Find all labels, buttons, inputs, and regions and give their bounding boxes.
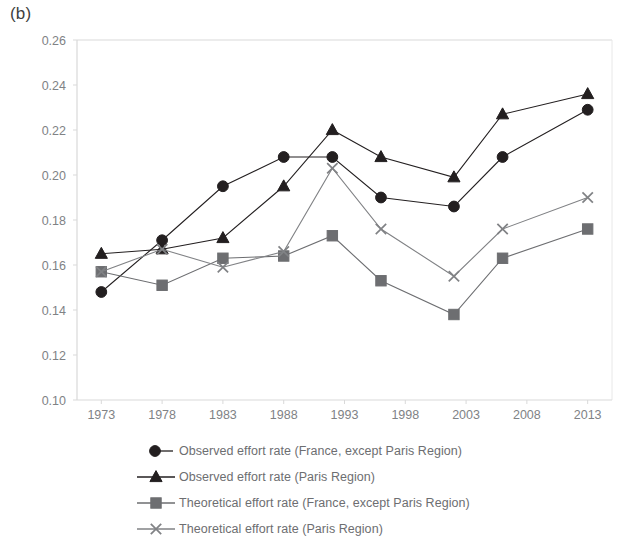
marker-triangle (375, 151, 387, 162)
legend-marker-square-icon (133, 493, 179, 513)
y-tick-label: 0.18 (42, 214, 66, 228)
chart-series (96, 104, 593, 297)
series-line (101, 229, 587, 315)
marker-square (376, 276, 386, 286)
figure-panel-b: (b) 0.100.120.140.160.180.200.220.240.26… (0, 0, 624, 552)
series-line (101, 168, 587, 276)
marker-square (327, 231, 337, 241)
x-tick-label: 1993 (331, 408, 359, 422)
legend-item-label: Observed effort rate (France, except Par… (179, 444, 462, 458)
legend-marker-cross-icon (133, 519, 179, 539)
marker-circle (376, 192, 387, 203)
x-tick-label: 2013 (574, 408, 602, 422)
chart-plot-area: 0.100.120.140.160.180.200.220.240.261973… (0, 0, 624, 436)
legend-marker-triangle-icon (133, 467, 179, 487)
marker-triangle (326, 124, 338, 135)
marker-circle (449, 201, 460, 212)
y-tick-label: 0.16 (42, 259, 66, 273)
chart-series (96, 224, 593, 320)
marker-circle (497, 152, 508, 163)
y-tick-label: 0.10 (42, 394, 66, 408)
y-tick-label: 0.20 (42, 169, 66, 183)
marker-circle (582, 104, 593, 115)
y-tick-label: 0.24 (42, 79, 66, 93)
x-tick-label: 1973 (87, 408, 115, 422)
marker-square (218, 253, 228, 263)
marker-square (157, 280, 167, 290)
legend-item-label: Observed effort rate (Paris Region) (179, 470, 375, 484)
marker-square (449, 309, 459, 319)
marker-circle (327, 152, 338, 163)
y-tick-label: 0.14 (42, 304, 66, 318)
marker-triangle (150, 471, 162, 482)
marker-square (151, 498, 161, 508)
marker-circle (96, 287, 107, 298)
x-tick-label: 1998 (391, 408, 419, 422)
marker-triangle (95, 247, 107, 258)
marker-circle (150, 446, 161, 457)
x-tick-label: 2003 (452, 408, 480, 422)
x-tick-label: 2008 (513, 408, 541, 422)
marker-circle (218, 181, 229, 192)
legend-item: Theoretical effort rate (Paris Region) (133, 516, 603, 542)
legend-item: Theoretical effort rate (France, except … (133, 490, 603, 516)
y-tick-label: 0.22 (42, 124, 66, 138)
marker-square (582, 224, 592, 234)
y-tick-label: 0.12 (42, 349, 66, 363)
chart-series (96, 163, 593, 281)
legend-marker-circle-icon (133, 441, 179, 461)
marker-square (497, 253, 507, 263)
marker-triangle (582, 88, 594, 99)
marker-circle (278, 152, 289, 163)
x-tick-label: 1988 (270, 408, 298, 422)
chart-legend: Observed effort rate (France, except Par… (133, 438, 603, 542)
legend-item: Observed effort rate (France, except Par… (133, 438, 603, 464)
marker-triangle (217, 232, 229, 243)
x-tick-label: 1983 (209, 408, 237, 422)
legend-item-label: Theoretical effort rate (Paris Region) (179, 522, 383, 536)
legend-item-label: Theoretical effort rate (France, except … (179, 496, 470, 510)
legend-item: Observed effort rate (Paris Region) (133, 464, 603, 490)
y-tick-label: 0.26 (42, 34, 66, 48)
x-tick-label: 1978 (148, 408, 176, 422)
